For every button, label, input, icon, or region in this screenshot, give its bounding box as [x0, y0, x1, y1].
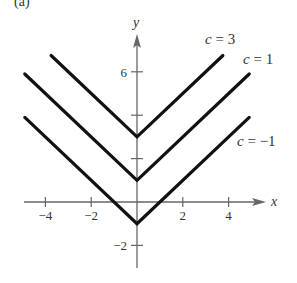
x-tick-label: 2: [180, 208, 187, 223]
y-tick-label: 6: [121, 65, 128, 80]
axes: [24, 44, 258, 268]
label-c-1: c = 1: [243, 51, 273, 67]
y-axis-label: y: [131, 15, 140, 30]
x-axis-label: x: [270, 194, 278, 209]
label-c-neg1: c = −1: [237, 133, 276, 149]
x-tick-label: −2: [84, 208, 98, 223]
y-tick-label: −2: [113, 238, 127, 253]
x-tick-label: −4: [38, 208, 52, 223]
graph: (a) −4−224−26 x y c = 3 c = 1 c = −1: [0, 0, 297, 283]
x-tick-label: 4: [225, 208, 232, 223]
part-label: (a): [14, 0, 30, 10]
label-c-3: c = 3: [205, 31, 235, 47]
